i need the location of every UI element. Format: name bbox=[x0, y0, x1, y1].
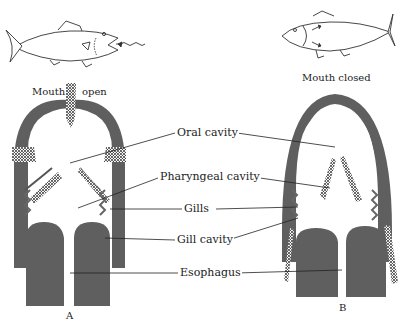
label-oral-cavity: Oral cavity bbox=[176, 127, 239, 139]
caption-open: open bbox=[82, 86, 107, 98]
label-pharyngeal-cavity: Pharyngeal cavity bbox=[159, 171, 261, 183]
caption-mouth: Mouth bbox=[32, 86, 65, 98]
panel-letter-b: B bbox=[339, 302, 346, 314]
fish-mouth-open-icon bbox=[6, 21, 145, 67]
label-gill-cavity: Gill cavity bbox=[176, 234, 234, 246]
caption-mouth-closed: Mouth closed bbox=[302, 72, 371, 84]
panel-letter-a: A bbox=[66, 310, 73, 322]
label-gills: Gills bbox=[183, 203, 210, 215]
fish-mouth-closed-icon bbox=[282, 11, 395, 58]
panel-a-cross-section bbox=[12, 83, 126, 306]
panel-b-cross-section bbox=[282, 94, 398, 297]
label-esophagus: Esophagus bbox=[179, 267, 242, 279]
